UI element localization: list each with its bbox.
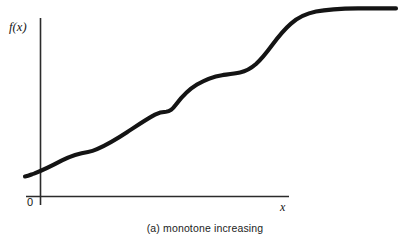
x-axis-label: x xyxy=(280,200,285,215)
origin-label: 0 xyxy=(27,196,33,208)
plot-canvas xyxy=(0,0,410,243)
y-axis-label: f(x) xyxy=(9,20,27,35)
figure-monotone-increasing: f(x) x 0 (a) monotone increasing xyxy=(0,0,410,243)
figure-caption: (a) monotone increasing xyxy=(0,222,410,234)
function-curve xyxy=(25,8,396,176)
